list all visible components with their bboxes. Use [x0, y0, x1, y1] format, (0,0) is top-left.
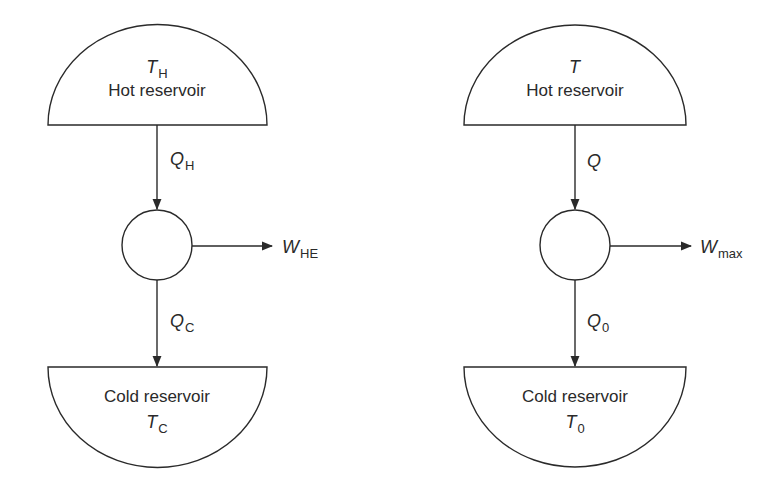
engine-circle-right [540, 210, 610, 280]
cold-temp-left: TC [146, 413, 167, 431]
hot-temp-left: TH [146, 58, 167, 76]
engine-circle-left [122, 210, 192, 280]
heat-in-left-label: QH [170, 150, 194, 168]
cold-reservoir-right-label: Cold reservoir [522, 388, 628, 405]
work-left-label: WHE [282, 238, 318, 256]
work-right-label: Wmax [700, 238, 743, 256]
hot-reservoir-right-label: Hot reservoir [526, 82, 623, 99]
diagram-canvas [0, 0, 772, 487]
hot-temp-right: T [569, 58, 581, 76]
hot-reservoir-left-label: Hot reservoir [108, 82, 205, 99]
heat-out-right-label: Q0 [587, 312, 609, 330]
heat-in-right-label: Q [587, 152, 602, 170]
heat-out-left-label: QC [170, 312, 194, 330]
cold-temp-right: T0 [565, 413, 584, 431]
cold-reservoir-left-label: Cold reservoir [104, 388, 210, 405]
